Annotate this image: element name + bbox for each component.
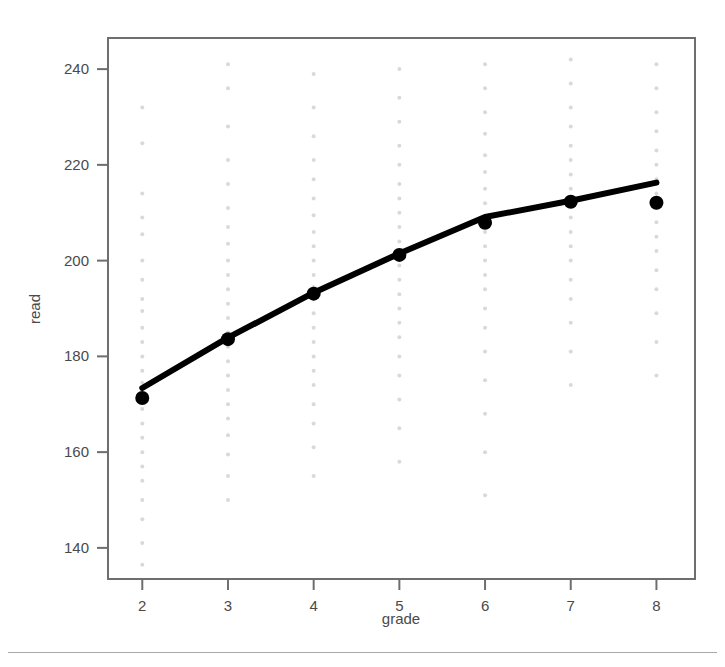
scatter-point xyxy=(312,326,316,330)
scatter-point xyxy=(569,105,573,109)
scatter-point xyxy=(483,62,487,66)
scatter-point xyxy=(226,302,230,306)
x-axis-tick-label: 6 xyxy=(481,597,489,614)
scatter-point xyxy=(397,163,401,167)
chart-figure: 140160180200220240 2345678 grade read xyxy=(0,0,725,667)
scatter-point xyxy=(569,350,573,354)
y-axis-tick-label: 140 xyxy=(64,539,89,556)
scatter-point xyxy=(312,230,316,234)
scatter-point xyxy=(226,287,230,291)
mean-data-point xyxy=(478,216,492,230)
scatter-point xyxy=(312,72,316,76)
scatter-point xyxy=(312,354,316,358)
scatter-point xyxy=(483,307,487,311)
scatter-point xyxy=(483,244,487,248)
y-axis-tick-label: 240 xyxy=(64,60,89,77)
scatter-point xyxy=(226,474,230,478)
scatter-point xyxy=(312,474,316,478)
scatter-point xyxy=(226,86,230,90)
scatter-point xyxy=(654,311,658,315)
scatter-point xyxy=(140,541,144,545)
scatter-point xyxy=(312,340,316,344)
scatter-point xyxy=(483,230,487,234)
scatter-point xyxy=(397,211,401,215)
scatter-point xyxy=(312,244,316,248)
mean-data-point xyxy=(649,196,663,210)
scatter-point xyxy=(654,340,658,344)
x-axis-title: grade xyxy=(382,610,420,627)
y-axis-tick-label: 220 xyxy=(64,156,89,173)
scatter-point xyxy=(654,62,658,66)
scatter-point xyxy=(569,58,573,62)
scatter-point xyxy=(226,433,230,437)
y-axis-tick-label: 180 xyxy=(64,347,89,364)
scatter-point xyxy=(226,273,230,277)
scatter-point xyxy=(654,129,658,133)
scatter-point xyxy=(654,86,658,90)
scatter-point xyxy=(483,187,487,191)
x-axis-tick-label: 4 xyxy=(309,597,317,614)
mean-data-point xyxy=(221,332,235,346)
scatter-point xyxy=(397,263,401,267)
scatter-point xyxy=(226,242,230,246)
x-axis-tick-label: 3 xyxy=(224,597,232,614)
x-axis-tick-label: 7 xyxy=(567,597,575,614)
scatter-point xyxy=(483,170,487,174)
scatter-point xyxy=(140,326,144,330)
scatter-point xyxy=(483,493,487,497)
scatter-point xyxy=(140,297,144,301)
y-axis-tick-label: 160 xyxy=(64,443,89,460)
scatter-point xyxy=(397,307,401,311)
scatter-point xyxy=(483,201,487,205)
scatter-point xyxy=(140,232,144,236)
scatter-point xyxy=(140,340,144,344)
scatter-point xyxy=(569,244,573,248)
scatter-point xyxy=(483,110,487,114)
scatter-point xyxy=(397,321,401,325)
scatter-point xyxy=(654,268,658,272)
scatter-point xyxy=(140,278,144,282)
scatter-point xyxy=(483,378,487,382)
scatter-point xyxy=(140,259,144,263)
x-axis-tick-label: 2 xyxy=(138,597,146,614)
scatter-point xyxy=(140,192,144,196)
scatter-point xyxy=(654,235,658,239)
read-by-grade-scatter-plot: 140160180200220240 2345678 grade read xyxy=(0,0,725,667)
scatter-point xyxy=(226,498,230,502)
scatter-point xyxy=(397,460,401,464)
scatter-point xyxy=(226,388,230,392)
scatter-point xyxy=(140,498,144,502)
x-axis-tick-label: 8 xyxy=(652,597,660,614)
scatter-point xyxy=(312,369,316,373)
scatter-point xyxy=(140,450,144,454)
scatter-point xyxy=(397,278,401,282)
scatter-point xyxy=(140,436,144,440)
scatter-point xyxy=(397,426,401,430)
scatter-point xyxy=(226,417,230,421)
scatter-point xyxy=(226,374,230,378)
scatter-point xyxy=(569,172,573,176)
scatter-point xyxy=(483,86,487,90)
scatter-point xyxy=(569,230,573,234)
scatter-point xyxy=(569,383,573,387)
scatter-point xyxy=(226,402,230,406)
scatter-point xyxy=(312,259,316,263)
scatter-point xyxy=(312,311,316,315)
scatter-point xyxy=(483,326,487,330)
scatter-point xyxy=(312,134,316,138)
scatter-point xyxy=(397,397,401,401)
scatter-point xyxy=(483,259,487,263)
scatter-point xyxy=(569,144,573,148)
scatter-point xyxy=(397,96,401,100)
scatter-point xyxy=(569,321,573,325)
scatter-point xyxy=(140,105,144,109)
scatter-point xyxy=(140,141,144,145)
scatter-point xyxy=(312,445,316,449)
mean-data-point xyxy=(392,248,406,262)
y-axis-tick-label: 200 xyxy=(64,252,89,269)
scatter-point xyxy=(569,216,573,220)
scatter-point xyxy=(140,216,144,220)
scatter-point xyxy=(226,259,230,263)
scatter-point xyxy=(140,479,144,483)
scatter-point xyxy=(140,354,144,358)
